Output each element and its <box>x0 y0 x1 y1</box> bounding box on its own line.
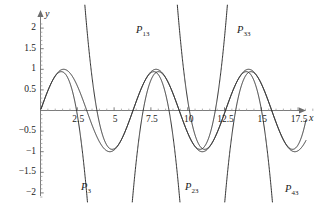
axis-group <box>37 10 306 196</box>
y-tick-label: −1 <box>10 147 36 157</box>
x-tick-label: 15 <box>252 115 272 125</box>
x-tick-label: 7.5 <box>142 115 162 125</box>
x-tick-label: 12.5 <box>216 115 236 125</box>
y-tick-label: 1 <box>10 64 36 74</box>
curve-label-subscript: 43 <box>291 189 298 197</box>
curve-label-p3: P3 <box>81 182 91 193</box>
curve-label-p43: P43 <box>285 184 298 195</box>
curve-label-p13: P13 <box>136 25 149 36</box>
plot-canvas <box>0 0 321 206</box>
curve-label-subscript: 33 <box>243 30 250 38</box>
y-tick-label: −0.5 <box>10 126 36 136</box>
curve-P13 <box>85 5 180 202</box>
y-axis-label: y <box>45 9 49 19</box>
curve-label-p23: P23 <box>185 182 198 193</box>
curve-label-subscript: 13 <box>142 30 149 38</box>
x-tick-label: 5 <box>105 115 125 125</box>
curve-label-subscript: 23 <box>191 187 198 195</box>
y-axis-arrowhead <box>37 10 43 17</box>
y-tick-label: 1.5 <box>10 44 36 54</box>
curve-label-p33: P33 <box>237 25 250 36</box>
x-tick-label: 17.5 <box>289 115 309 125</box>
x-axis-label: x <box>309 113 313 123</box>
y-tick-label: −1.5 <box>10 167 36 177</box>
y-tick-label: 2 <box>10 23 36 33</box>
curve-label-subscript: 3 <box>87 187 91 195</box>
x-axis-arrowhead <box>299 107 306 113</box>
y-tick-label: 0.5 <box>10 85 36 95</box>
x-tick-label: 2.5 <box>68 115 88 125</box>
taylor-polynomial-plot: 2.557.51012.51517.5 21.510.5−0.5−1−1.5−2… <box>0 0 321 206</box>
x-tick-label: 10 <box>179 115 199 125</box>
y-tick-label: −2 <box>10 188 36 198</box>
curve-group <box>41 5 306 202</box>
